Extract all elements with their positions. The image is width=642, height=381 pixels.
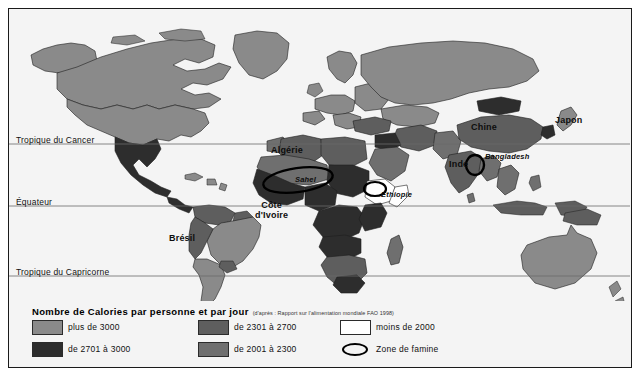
- legend-column-1: plus de 3000 de 2701 à 3000: [32, 318, 131, 362]
- map-label-inde: Inde: [449, 159, 468, 169]
- map-label-cote-divoire-line2: d'Ivoire: [255, 210, 288, 220]
- map-label-cote-divoire: Côte d'Ivoire: [255, 200, 288, 220]
- legend-title: Nombre de Calories par personne et par j…: [32, 306, 249, 317]
- legend-swatch-2001-2300: [198, 342, 229, 357]
- legend-entry-2701-3000: de 2701 à 3000: [32, 340, 131, 358]
- map-label-cote-divoire-line1: Côte: [255, 200, 288, 210]
- famine-ellipse-glyph: [342, 343, 368, 356]
- legend-swatch-plus-de-3000: [32, 320, 63, 335]
- world-calorie-map-figure: Tropique du Cancer Équateur Tropique du …: [0, 0, 642, 381]
- legend-header: Nombre de Calories par personne et par j…: [32, 301, 394, 319]
- legend-entry-moins-de-2000: moins de 2000: [340, 318, 439, 336]
- legend-label-moins-de-2000: moins de 2000: [376, 322, 435, 332]
- legend-entry-2001-2300: de 2001 à 2300: [198, 340, 297, 358]
- figure-frame: Tropique du Cancer Équateur Tropique du …: [8, 8, 632, 368]
- legend-source: (d'après : Rapport sur l'alimentation mo…: [253, 310, 394, 316]
- map-label-chine: Chine: [471, 122, 497, 132]
- map-label-japon: Japon: [555, 115, 583, 125]
- legend-label-2001-2300: de 2001 à 2300: [234, 344, 297, 354]
- legend-column-2: de 2301 à 2700 de 2001 à 2300: [198, 318, 297, 362]
- legend-ellipse-icon: [340, 342, 371, 357]
- map-label-bresil: Brésil: [169, 233, 195, 243]
- legend-label-2701-3000: de 2701 à 3000: [68, 344, 131, 354]
- latitude-label-tropic-cancer: Tropique du Cancer: [16, 135, 94, 145]
- map-label-bangladesh: Bangladesh: [485, 152, 530, 162]
- legend-entry-2301-2700: de 2301 à 2700: [198, 318, 297, 336]
- latitude-label-tropic-capricorn: Tropique du Capricorne: [16, 267, 109, 277]
- legend-swatch-2301-2700: [198, 320, 229, 335]
- country-libya-egypt: [321, 137, 367, 167]
- legend-entry-plus-de-3000: plus de 3000: [32, 318, 131, 336]
- legend-label-plus-de-3000: plus de 3000: [68, 322, 120, 332]
- legend-entry-zone-de-famine: Zone de famine: [340, 340, 439, 358]
- map-label-sahel: Sahel: [295, 175, 316, 185]
- legend-label-2301-2700: de 2301 à 2700: [234, 322, 297, 332]
- latitude-label-equator: Équateur: [16, 197, 52, 207]
- legend-swatch-moins-de-2000: [340, 320, 371, 335]
- legend-label-zone-de-famine: Zone de famine: [376, 344, 439, 354]
- map-label-algerie: Algérie: [271, 145, 303, 155]
- legend: Nombre de Calories par personne et par j…: [20, 301, 620, 363]
- legend-swatch-2701-3000: [32, 342, 63, 357]
- map-label-ethiopie: Éthiopie: [381, 190, 412, 200]
- legend-column-3: moins de 2000 Zone de famine: [340, 318, 439, 362]
